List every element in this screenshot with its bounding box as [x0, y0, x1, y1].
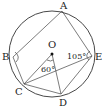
label-d: D	[59, 97, 67, 108]
segment-cd	[24, 84, 61, 94]
segment-ae	[62, 11, 92, 56]
angle-label-60: 60°	[41, 65, 55, 74]
angle-labels: 60° 105°	[41, 52, 86, 74]
label-a: A	[59, 0, 68, 11]
label-c: C	[15, 86, 23, 97]
segment-bc	[13, 57, 24, 84]
label-o: O	[48, 39, 56, 50]
angle-label-105: 105°	[67, 52, 86, 61]
label-b: B	[2, 51, 9, 62]
label-e: E	[95, 51, 102, 62]
angle-arc-b	[15, 52, 18, 62]
segment-od	[52, 54, 61, 94]
segment-ab	[13, 11, 62, 57]
geometry-diagram: A B C D E O 60° 105°	[0, 0, 108, 108]
segment-de	[61, 56, 92, 94]
center-point-o	[51, 53, 54, 56]
angle-arc-o	[47, 60, 53, 61]
